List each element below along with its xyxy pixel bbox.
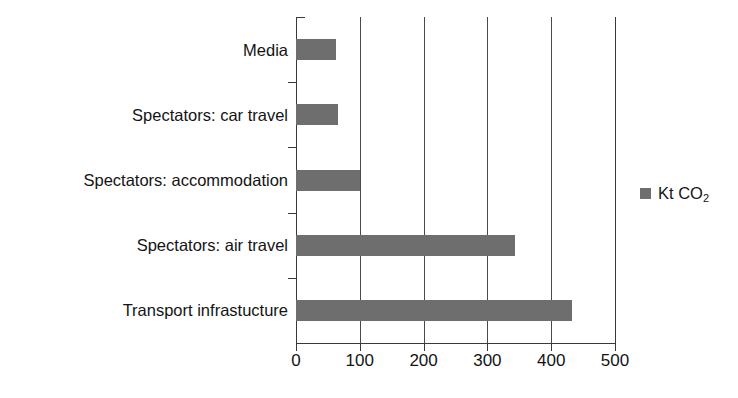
bar (296, 300, 572, 321)
x-axis-line (296, 343, 615, 344)
category-label: Spectators: air travel (6, 237, 288, 254)
x-axis-tick (296, 343, 297, 351)
plot-area (296, 17, 615, 343)
gridline-200 (424, 17, 425, 343)
bar (296, 235, 515, 256)
x-axis-tick-label: 200 (409, 352, 437, 369)
y-axis-tick (288, 147, 296, 148)
x-axis-tick-label: 500 (601, 352, 629, 369)
x-axis-tick-label: 100 (346, 352, 374, 369)
y-axis-tick (288, 278, 296, 279)
bar (296, 39, 336, 60)
category-label: Transport infrastucture (6, 302, 288, 319)
y-axis-tick (288, 82, 296, 83)
x-axis-tick-label: 0 (291, 352, 300, 369)
gridline-300 (487, 17, 488, 343)
y-axis-tick (288, 213, 296, 214)
bar (296, 170, 360, 191)
legend: Kt CO2 (640, 185, 709, 202)
legend-label-text: Kt CO (658, 184, 703, 202)
bar-chart: MediaSpectators: car travelSpectators: a… (0, 0, 738, 398)
x-axis-tick (487, 343, 488, 351)
legend-label: Kt CO2 (658, 185, 709, 202)
x-axis-tick (360, 343, 361, 351)
category-label: Spectators: car travel (6, 107, 288, 124)
x-axis-tick-label: 300 (473, 352, 501, 369)
category-label: Spectators: accommodation (6, 172, 288, 189)
bar (296, 104, 338, 125)
gridline-100 (360, 17, 361, 343)
category-label: Media (6, 42, 288, 59)
x-axis-tick (615, 343, 616, 351)
legend-label-subscript: 2 (703, 192, 709, 204)
x-axis-tick-label: 400 (537, 352, 565, 369)
x-axis-tick (551, 343, 552, 351)
gridline-500 (615, 17, 616, 343)
gridline-400 (551, 17, 552, 343)
legend-swatch-icon (640, 188, 651, 199)
x-axis-tick (424, 343, 425, 351)
